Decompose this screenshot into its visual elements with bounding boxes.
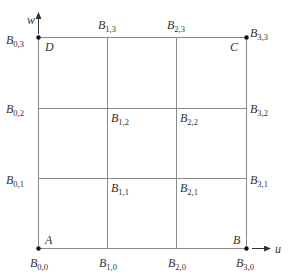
- corner-point-B: [244, 246, 248, 250]
- bezier-patch-control-grid-diagram: w u D C A B B0,3 B1,3 B2,3 B3,3 B0,2 B1,…: [0, 0, 295, 280]
- control-point-label-b11: B1,1: [111, 182, 129, 194]
- w-axis-label: w: [27, 14, 35, 26]
- corner-point-C: [244, 35, 248, 39]
- control-point-label-b03: B0,3: [6, 34, 24, 46]
- control-point-label-b01: B0,1: [6, 174, 24, 186]
- control-point-label-b20: B2,0: [168, 257, 186, 269]
- control-point-label-b22: B2,2: [180, 112, 198, 124]
- corner-label-D: D: [45, 41, 54, 53]
- control-point-label-b32: B3,2: [250, 103, 268, 115]
- u-axis-label: u: [275, 243, 281, 255]
- control-point-label-b30: B3,0: [236, 257, 254, 269]
- corner-label-C: C: [230, 41, 238, 53]
- control-point-label-b12: B1,2: [111, 112, 129, 124]
- corner-point-A: [36, 246, 40, 250]
- corner-label-A: A: [45, 234, 52, 246]
- control-point-label-b13: B1,3: [98, 19, 116, 31]
- control-point-label-b10: B1,0: [99, 257, 117, 269]
- control-point-label-b21: B2,1: [180, 182, 198, 194]
- control-point-label-b00: B0,0: [30, 257, 48, 269]
- corner-label-B: B: [233, 234, 240, 246]
- corner-point-D: [36, 35, 40, 39]
- control-point-label-b02: B0,2: [6, 103, 24, 115]
- control-point-label-b23: B2,3: [167, 19, 185, 31]
- control-point-label-b31: B3,1: [250, 174, 268, 186]
- control-point-label-b33: B3,3: [250, 27, 268, 39]
